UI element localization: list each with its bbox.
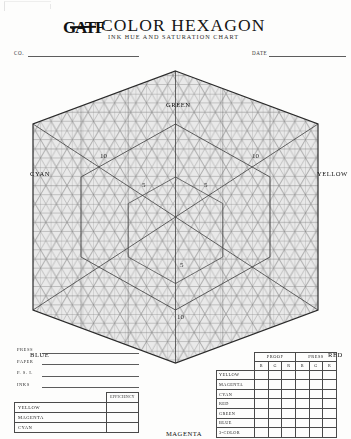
- ring-label-10-left: 10: [100, 152, 108, 160]
- pp-cell-red-press-b[interactable]: [296, 399, 310, 409]
- pp-cell-cyan-proof-g[interactable]: [268, 389, 282, 399]
- pp-row-3color: 3-COLOR: [217, 428, 255, 438]
- pp-cell-3color-proof-g[interactable]: [268, 428, 282, 438]
- efficiency-value-cyan[interactable]: [107, 423, 139, 433]
- table-row: EFFICIENCY: [15, 393, 139, 403]
- table-row[interactable]: 3-COLOR: [217, 428, 337, 438]
- pp-cell-cyan-press-r[interactable]: [323, 389, 337, 399]
- pp-cell-blue-press-r[interactable]: [323, 418, 337, 428]
- form-row-press[interactable]: PRESS: [14, 345, 139, 357]
- table-row[interactable]: YELLOW: [15, 402, 139, 412]
- pp-cell-cyan-press-g[interactable]: [309, 389, 323, 399]
- pp-group-proof: PROOF: [255, 353, 296, 362]
- gatf-logo-bar: [70, 26, 96, 29]
- pp-cell-green-proof-r[interactable]: [282, 409, 296, 419]
- ring-label-10-right: 10: [252, 152, 260, 160]
- efficiency-value-yellow[interactable]: [107, 402, 139, 412]
- pp-cell-magenta-press-r[interactable]: [323, 380, 337, 390]
- pp-cell-cyan-press-b[interactable]: [296, 389, 310, 399]
- table-row: PROOF PRESS: [217, 353, 337, 362]
- form-page: GATF COLOR HEXAGON INK HUE AND SATURATIO…: [0, 0, 351, 439]
- pp-cell-blue-proof-b[interactable]: [255, 418, 269, 428]
- pp-cell-blue-press-b[interactable]: [296, 418, 310, 428]
- pp-cell-yellow-press-g[interactable]: [309, 370, 323, 380]
- table-row[interactable]: CYAN: [217, 389, 337, 399]
- pp-cell-yellow-press-r[interactable]: [323, 370, 337, 380]
- pp-cell-3color-press-b[interactable]: [296, 428, 310, 438]
- pp-row-green: GREEN: [217, 409, 255, 419]
- pp-cell-yellow-proof-r[interactable]: [282, 370, 296, 380]
- table-row[interactable]: CYAN: [15, 423, 139, 433]
- pp-subheader-press-b: B: [296, 361, 310, 370]
- pp-cell-yellow-press-b[interactable]: [296, 370, 310, 380]
- pp-cell-3color-press-r[interactable]: [323, 428, 337, 438]
- pp-cell-blue-press-g[interactable]: [309, 418, 323, 428]
- pp-cell-yellow-proof-g[interactable]: [268, 370, 282, 380]
- pp-corner-cell: [217, 353, 255, 362]
- pp-cell-red-proof-r[interactable]: [282, 399, 296, 409]
- table-row[interactable]: YELLOW: [217, 370, 337, 380]
- efficiency-row-cyan: CYAN: [15, 423, 107, 433]
- efficiency-corner-cell: [15, 393, 107, 403]
- pp-cell-red-press-g[interactable]: [309, 399, 323, 409]
- pp-cell-blue-proof-g[interactable]: [268, 418, 282, 428]
- pp-cell-magenta-proof-b[interactable]: [255, 380, 269, 390]
- efficiency-value-magenta[interactable]: [107, 412, 139, 422]
- table-row[interactable]: RED: [217, 399, 337, 409]
- ring-label-5-left: 5: [142, 181, 146, 189]
- gatf-logo: GATF: [63, 19, 104, 36]
- page-subtitle: INK HUE AND SATURATION CHART: [108, 33, 258, 40]
- psi-write-line[interactable]: [42, 376, 139, 377]
- pp-cell-3color-proof-r[interactable]: [282, 428, 296, 438]
- vertex-label-yellow: YELLOW: [317, 170, 348, 177]
- form-row-paper[interactable]: PAPER: [14, 357, 139, 369]
- form-row-inks[interactable]: INKS: [14, 380, 139, 392]
- pp-cell-magenta-press-g[interactable]: [309, 380, 323, 390]
- pp-subheader-proof-b: B: [255, 361, 269, 370]
- company-label: CO.: [14, 50, 24, 56]
- pp-row-magenta: MAGENTA: [217, 380, 255, 390]
- pp-cell-red-proof-b[interactable]: [255, 399, 269, 409]
- vertex-label-cyan: CYAN: [30, 170, 50, 177]
- pp-cell-magenta-proof-r[interactable]: [282, 380, 296, 390]
- pp-row-blue: BLUE: [217, 418, 255, 428]
- efficiency-row-yellow: YELLOW: [15, 402, 107, 412]
- ring-label-5-bottom: 5: [180, 261, 184, 269]
- press-details-form[interactable]: PRESS PAPER P. S. I. INKS: [14, 345, 139, 391]
- pp-cell-3color-proof-b[interactable]: [255, 428, 269, 438]
- pp-subheader-proof-g: G: [268, 361, 282, 370]
- pp-group-press: PRESS: [296, 353, 337, 362]
- press-label: PRESS: [17, 347, 33, 352]
- pp-cell-red-press-r[interactable]: [323, 399, 337, 409]
- paper-write-line[interactable]: [42, 364, 139, 365]
- inks-write-line[interactable]: [42, 387, 139, 388]
- pp-subheader-press-r: R: [323, 361, 337, 370]
- pp-cell-magenta-press-b[interactable]: [296, 380, 310, 390]
- pp-cell-cyan-proof-b[interactable]: [255, 389, 269, 399]
- pp-cell-magenta-proof-g[interactable]: [268, 380, 282, 390]
- paper-label: PAPER: [17, 359, 33, 364]
- pp-cell-3color-press-g[interactable]: [309, 428, 323, 438]
- table-row[interactable]: BLUE: [217, 418, 337, 428]
- page-header: GATF COLOR HEXAGON INK HUE AND SATURATIO…: [0, 9, 351, 39]
- pp-cell-green-proof-g[interactable]: [268, 409, 282, 419]
- pp-cell-green-press-r[interactable]: [323, 409, 337, 419]
- efficiency-table[interactable]: EFFICIENCY YELLOW MAGENTA CYAN: [14, 392, 139, 433]
- pp-cell-blue-proof-r[interactable]: [282, 418, 296, 428]
- pp-cell-green-press-b[interactable]: [296, 409, 310, 419]
- pp-subcorner-cell: [217, 361, 255, 370]
- efficiency-row-magenta: MAGENTA: [15, 412, 107, 422]
- table-row[interactable]: GREEN: [217, 409, 337, 419]
- table-row: B G R B G R: [217, 361, 337, 370]
- press-write-line[interactable]: [42, 353, 139, 354]
- pp-cell-cyan-proof-r[interactable]: [282, 389, 296, 399]
- pp-cell-green-press-g[interactable]: [309, 409, 323, 419]
- pp-cell-red-proof-g[interactable]: [268, 399, 282, 409]
- table-row[interactable]: MAGENTA: [15, 412, 139, 422]
- color-hexagon-chart[interactable]: 10 10 5 5 5 10 GREEN CYAN YELLOW BLUE RE…: [14, 57, 337, 377]
- pp-cell-green-proof-b[interactable]: [255, 409, 269, 419]
- table-row[interactable]: MAGENTA: [217, 380, 337, 390]
- form-row-psi[interactable]: P. S. I.: [14, 368, 139, 380]
- proof-press-table[interactable]: PROOF PRESS B G R B G R YELLOW MAGENTA: [216, 352, 337, 438]
- pp-cell-yellow-proof-b[interactable]: [255, 370, 269, 380]
